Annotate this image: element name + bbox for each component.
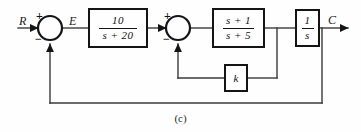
label-input-r: R [19, 15, 26, 27]
label-error-e: E [69, 15, 76, 27]
block-one-over-s: 1 s [295, 9, 320, 47]
summer-2-minus-sign: − [163, 33, 170, 45]
summer-1-minus-sign: − [35, 33, 42, 45]
numerator-text: s + 1 [223, 15, 254, 28]
label-output-c: C [328, 14, 336, 26]
fraction-s-plus-1-over-s-plus-5: s + 1 s + 5 [223, 15, 254, 42]
numerator-text: 10 [109, 15, 127, 28]
figure-caption: (c) [0, 112, 361, 124]
fraction-10-over-s-plus-20: 10 s + 20 [99, 15, 136, 42]
fraction-one-over-s: 1 s [302, 15, 314, 42]
block-10-over-s-plus-20: 10 s + 20 [88, 8, 148, 48]
summer-2-plus-sign: + [164, 10, 171, 22]
denominator-text: s + 5 [223, 29, 254, 42]
block-s-plus-1-over-s-plus-5: s + 1 s + 5 [212, 8, 265, 48]
denominator-text: s + 20 [99, 29, 136, 42]
numerator-text: 1 [302, 15, 314, 28]
block-diagram-figure: R E C + − + − 10 s + 20 s + 1 s + 5 1 s … [0, 0, 361, 132]
summer-1-plus-sign: + [36, 10, 43, 22]
block-gain-k: k [224, 64, 248, 92]
gain-k-symbol: k [234, 72, 239, 84]
denominator-text: s [302, 29, 313, 42]
